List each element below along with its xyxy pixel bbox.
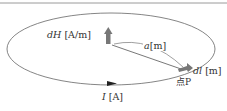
current-loop: [7, 13, 215, 85]
I-variable: I: [102, 91, 106, 102]
a-label: a[m]: [143, 41, 167, 51]
dl-label: dl [m]: [193, 66, 222, 76]
dH-unit: [A/m]: [64, 29, 90, 40]
dH-arrow-icon: [104, 27, 113, 44]
dl-variable: dl: [193, 65, 202, 76]
dl-unit: [m]: [205, 65, 221, 76]
a-unit: [m]: [150, 40, 166, 51]
I-unit: [A]: [109, 91, 123, 102]
point-P-label: 点P: [176, 78, 191, 87]
dH-label: dH [A/m]: [47, 30, 91, 40]
dH-variable: dH: [47, 29, 61, 40]
I-label: I [A]: [102, 92, 123, 102]
